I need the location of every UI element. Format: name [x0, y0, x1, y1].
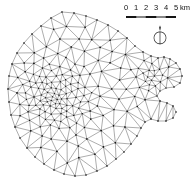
scale-tick-label-3: 3 — [154, 3, 158, 12]
scale-tick-label-2: 2 — [144, 3, 148, 12]
scale-bar-graphic — [125, 15, 177, 19]
north-arrow-icon — [150, 23, 170, 47]
scale-tick-label-5: 5 — [174, 3, 178, 12]
map-legend: 0 1 2 3 4 5 km — [124, 3, 190, 47]
scale-bar-labels: 0 1 2 3 4 5 km — [124, 3, 186, 14]
scale-tick-label-1: 1 — [134, 3, 138, 12]
mesh-figure: 0 1 2 3 4 5 km — [0, 0, 194, 184]
scale-tick-label-0: 0 — [124, 3, 128, 12]
scale-tick-label-4: 4 — [164, 3, 168, 12]
scale-unit-label: km — [180, 3, 190, 12]
